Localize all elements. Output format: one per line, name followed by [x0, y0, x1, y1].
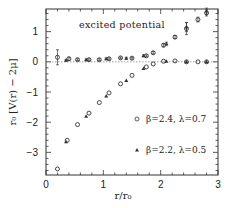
legend: β=2.4, λ=0.7 β=2.2, λ=0.5: [135, 114, 207, 155]
y-tick-label: 1: [32, 26, 38, 37]
circle-marker: [151, 62, 155, 66]
triangle-marker-icon: [135, 148, 139, 152]
circle-marker: [76, 123, 80, 127]
chart: 0123−3−2−101 excited potential β=2.4, λ=…: [0, 0, 229, 208]
x-tick-label: 0: [43, 179, 49, 190]
circle-marker: [119, 82, 123, 86]
y-tick-label: 0: [32, 56, 38, 67]
triangle-marker: [124, 79, 128, 83]
circle-marker: [87, 111, 91, 115]
circle-marker: [107, 91, 111, 95]
x-tick-label: 1: [101, 179, 107, 190]
circle-marker: [55, 167, 59, 171]
y-tick-label: −1: [27, 87, 39, 98]
legend-label-beta-2-2: β=2.2, λ=0.5: [146, 145, 207, 155]
legend-entry-beta-2-2: β=2.2, λ=0.5: [135, 145, 207, 155]
circle-marker: [144, 65, 148, 69]
x-axis-label: r/r₀: [115, 190, 132, 201]
y-tick-label: −3: [27, 147, 39, 158]
legend-entry-beta-2-4: β=2.4, λ=0.7: [135, 114, 207, 124]
y-axis-label: r₀ [V(r) − 2μ]: [7, 58, 18, 125]
circle-marker: [97, 101, 101, 105]
y-tick-label: −2: [27, 117, 39, 128]
annotation-excited-potential: excited potential: [79, 19, 165, 30]
triangle-marker: [124, 56, 128, 60]
triangle-marker: [64, 140, 68, 144]
x-tick-label: 3: [215, 179, 221, 190]
circle-marker: [173, 59, 177, 63]
legend-label-beta-2-4: β=2.4, λ=0.7: [146, 114, 207, 124]
circle-marker: [130, 73, 134, 77]
x-tick-label: 2: [158, 179, 164, 190]
circle-marker-icon: [135, 117, 139, 121]
axis-ticks: 0123−3−2−101: [27, 9, 222, 190]
